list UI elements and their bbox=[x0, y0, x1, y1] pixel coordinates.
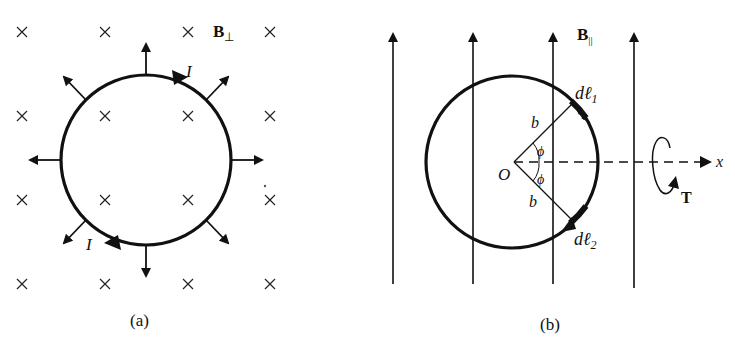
angle-label-top: ϕ bbox=[537, 144, 544, 159]
radius-label-top: b bbox=[531, 114, 539, 131]
dl1-segment bbox=[571, 101, 586, 118]
field-label-a: B⊥ bbox=[213, 22, 234, 44]
angle-label-bottom: ϕ bbox=[537, 172, 544, 187]
dl1-label: dℓ1 bbox=[575, 83, 598, 106]
torque-label: T bbox=[681, 189, 692, 206]
dl2-label: dℓ2 bbox=[574, 229, 597, 252]
diagram-canvas: B⊥ I I (a) B|| dℓ1 bbox=[0, 0, 735, 352]
caption-b: (b) bbox=[540, 315, 560, 334]
panel-a: B⊥ I I (a) bbox=[17, 22, 275, 330]
force-arrows bbox=[30, 44, 262, 276]
radius-label-bottom: b bbox=[529, 193, 537, 210]
axis-arrow-icon bbox=[700, 156, 712, 168]
current-loop-a bbox=[61, 75, 231, 245]
torque-arrow-icon bbox=[668, 176, 679, 189]
radius-2 bbox=[514, 162, 573, 221]
origin-label: O bbox=[498, 165, 510, 184]
current-label-top: I bbox=[185, 62, 193, 81]
panel-b: B|| dℓ1 dℓ2 b b ϕ ϕ O x T (b) bbox=[393, 25, 723, 334]
axis-label: x bbox=[715, 153, 723, 170]
current-label-bottom: I bbox=[85, 235, 93, 254]
caption-a: (a) bbox=[130, 311, 149, 330]
field-label-b: B|| bbox=[577, 25, 593, 46]
speck bbox=[264, 185, 266, 187]
